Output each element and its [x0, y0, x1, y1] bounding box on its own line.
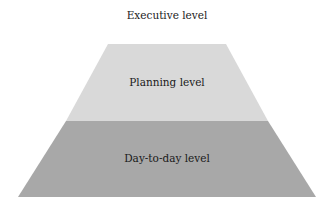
planning-level-label: Planning level — [129, 76, 205, 88]
day-to-day-level-label: Day-to-day level — [124, 152, 210, 164]
pyramid-diagram: Executive level Planning level Day-to-da… — [0, 0, 335, 204]
executive-level-label: Executive level — [127, 9, 208, 21]
